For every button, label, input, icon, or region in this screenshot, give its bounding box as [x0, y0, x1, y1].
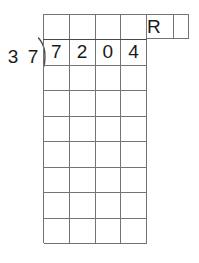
divisor-digit-0: 3 — [4, 44, 22, 70]
dividend-cell-0[interactable]: 7 — [44, 40, 70, 65]
work-cell-0-3[interactable] — [121, 66, 147, 91]
work-cell-0-0[interactable] — [44, 66, 70, 91]
work-cell-2-1[interactable] — [70, 117, 96, 142]
work-row-0 — [44, 66, 147, 91]
work-row-2 — [44, 117, 147, 142]
work-cell-6-1[interactable] — [70, 219, 96, 244]
work-cell-1-2[interactable] — [96, 91, 122, 116]
work-cell-1-1[interactable] — [70, 91, 96, 116]
quotient-cell-0[interactable] — [44, 15, 70, 40]
work-cell-4-3[interactable] — [121, 168, 147, 193]
dividend-cell-3[interactable]: 4 — [121, 40, 147, 65]
work-cell-6-0[interactable] — [44, 219, 70, 244]
dividend-row: 7204 — [44, 40, 147, 65]
vinculum-line — [43, 39, 147, 40]
remainder-label: R — [146, 15, 173, 39]
division-grid: 7204 — [43, 14, 146, 243]
quotient-cell-3[interactable] — [121, 15, 147, 40]
work-row-4 — [44, 168, 147, 193]
work-cell-3-0[interactable] — [44, 142, 70, 167]
work-cell-2-3[interactable] — [121, 117, 147, 142]
work-row-3 — [44, 142, 147, 167]
work-cell-5-2[interactable] — [96, 193, 122, 218]
work-cell-3-1[interactable] — [70, 142, 96, 167]
quotient-cell-1[interactable] — [70, 15, 96, 40]
work-cell-6-2[interactable] — [96, 219, 122, 244]
work-row-1 — [44, 91, 147, 116]
work-cell-5-1[interactable] — [70, 193, 96, 218]
remainder-cell[interactable]: R — [146, 14, 174, 39]
work-cell-0-2[interactable] — [96, 66, 122, 91]
work-cell-4-1[interactable] — [70, 168, 96, 193]
work-cell-4-0[interactable] — [44, 168, 70, 193]
quotient-row — [44, 15, 147, 40]
work-cell-0-1[interactable] — [70, 66, 96, 91]
work-cell-1-0[interactable] — [44, 91, 70, 116]
divisor-digit-1: 7 — [24, 44, 42, 70]
long-division-worksheet: 3 7 7204 R — [0, 0, 199, 263]
work-row-5 — [44, 193, 147, 218]
work-cell-4-2[interactable] — [96, 168, 122, 193]
work-cell-2-0[interactable] — [44, 117, 70, 142]
work-cell-5-3[interactable] — [121, 193, 147, 218]
work-row-6 — [44, 219, 147, 244]
dividend-cell-1[interactable]: 2 — [70, 40, 96, 65]
work-cell-6-3[interactable] — [121, 219, 147, 244]
work-cell-3-3[interactable] — [121, 142, 147, 167]
work-cell-5-0[interactable] — [44, 193, 70, 218]
work-cell-1-3[interactable] — [121, 91, 147, 116]
remainder-value-cell[interactable] — [174, 14, 189, 39]
work-cell-2-2[interactable] — [96, 117, 122, 142]
work-cell-3-2[interactable] — [96, 142, 122, 167]
dividend-cell-2[interactable]: 0 — [96, 40, 122, 65]
quotient-cell-2[interactable] — [96, 15, 122, 40]
